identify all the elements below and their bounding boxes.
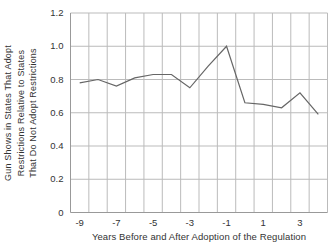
x-tick-label: -7	[112, 217, 120, 228]
y-axis-title-line-1: Gun Shows in States That Adopt	[2, 13, 15, 213]
y-axis-title-line-2: Restrictions Relative to States	[15, 13, 28, 213]
y-tick-label: 0.8	[50, 74, 63, 85]
line-chart: 00.20.40.60.81.01.2-9-7-5-3-113	[0, 0, 331, 246]
y-tick-label: 0.2	[50, 173, 63, 184]
x-tick-label: -3	[186, 217, 194, 228]
y-tick-label: 0.6	[50, 107, 63, 118]
x-tick-label: -5	[149, 217, 157, 228]
x-tick-label: 3	[297, 217, 302, 228]
x-tick-label: -9	[75, 217, 83, 228]
y-axis-title-line-3: That Do Not Adopt Restrictions	[27, 13, 40, 213]
y-axis-title: Gun Shows in States That Adopt Restricti…	[2, 13, 40, 213]
y-tick-label: 1.2	[50, 7, 63, 18]
x-axis-title: Years Before and After Adoption of the R…	[70, 231, 328, 242]
y-tick-label: 1.0	[50, 40, 63, 51]
x-tick-label: 1	[261, 217, 266, 228]
y-tick-label: 0.4	[50, 140, 63, 151]
chart-figure: 00.20.40.60.81.01.2-9-7-5-3-113 Gun Show…	[0, 0, 331, 246]
x-tick-label: -1	[222, 217, 230, 228]
y-tick-label: 0	[58, 207, 63, 218]
